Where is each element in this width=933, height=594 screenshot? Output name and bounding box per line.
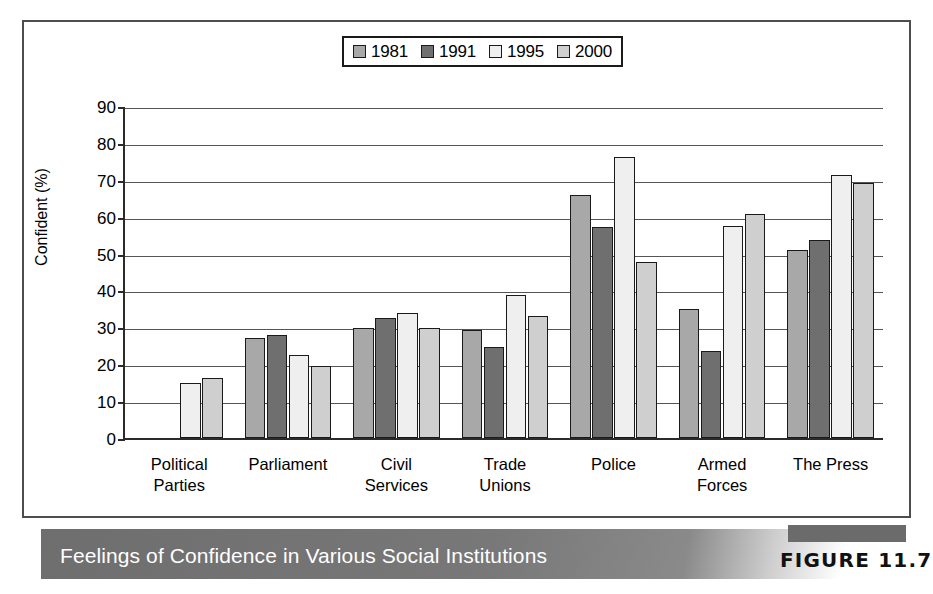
legend-swatch-icon-1995 <box>489 45 502 58</box>
bar-police-1981[interactable] <box>570 195 591 438</box>
x-axis-label-line: Armed <box>662 454 782 475</box>
legend-swatch-icon-1981 <box>353 45 366 58</box>
bar-civil-services-2000[interactable] <box>419 328 440 438</box>
y-tick-mark-90 <box>118 107 125 109</box>
x-axis-label-line: Parliament <box>228 454 348 475</box>
y-tick-mark-50 <box>118 255 125 257</box>
bar-group-trade-unions: TradeUnions <box>462 108 549 438</box>
y-tick-label-90: 90 <box>97 98 116 118</box>
bar-political-parties-2000[interactable] <box>202 378 223 438</box>
x-axis-label-political-parties: PoliticalParties <box>119 454 239 495</box>
x-axis-label-civil-services: CivilServices <box>336 454 456 495</box>
legend: 1981199119952000 <box>342 36 623 67</box>
bar-group-civil-services: CivilServices <box>353 108 440 438</box>
legend-item-1991[interactable]: 1991 <box>421 43 476 60</box>
x-axis-label-parliament: Parliament <box>228 454 348 475</box>
x-axis-label-line: Police <box>554 454 674 475</box>
bar-trade-unions-1995[interactable] <box>506 295 527 438</box>
legend-item-1995[interactable]: 1995 <box>489 43 544 60</box>
legend-label: 2000 <box>575 43 612 60</box>
legend-label: 1995 <box>507 43 544 60</box>
x-axis-label-armed-forces: ArmedForces <box>662 454 782 495</box>
figure-tag-label: FIGURE 11.7 <box>780 548 932 572</box>
bar-parliament-1991[interactable] <box>267 335 288 438</box>
y-tick-mark-10 <box>118 402 125 404</box>
plot-area: 9080706050403020100 PoliticalPartiesParl… <box>123 108 883 440</box>
bar-group-armed-forces: ArmedForces <box>679 108 766 438</box>
bar-parliament-1981[interactable] <box>245 338 266 438</box>
x-axis-label-trade-unions: TradeUnions <box>445 454 565 495</box>
bar-the-press-1981[interactable] <box>787 250 808 438</box>
bar-the-press-1991[interactable] <box>809 240 830 438</box>
bar-armed-forces-1991[interactable] <box>701 351 722 438</box>
bar-parliament-2000[interactable] <box>311 366 332 438</box>
legend-swatch-icon-1991 <box>421 45 434 58</box>
y-tick-label-0: 0 <box>107 430 116 450</box>
y-tick-mark-30 <box>118 328 125 330</box>
y-tick-label-20: 20 <box>97 356 116 376</box>
y-tick-mark-80 <box>118 144 125 146</box>
x-axis-label-line: The Press <box>771 454 891 475</box>
x-axis-label-line: Trade <box>445 454 565 475</box>
bar-political-parties-1995[interactable] <box>180 383 201 438</box>
y-tick-label-60: 60 <box>97 208 116 228</box>
bar-armed-forces-2000[interactable] <box>745 214 766 438</box>
x-axis-label-police: Police <box>554 454 674 475</box>
bar-series-container: PoliticalPartiesParliamentCivilServicesT… <box>125 108 883 438</box>
bar-civil-services-1981[interactable] <box>353 328 374 438</box>
legend-item-2000[interactable]: 2000 <box>557 43 612 60</box>
y-tick-mark-70 <box>118 181 125 183</box>
bar-police-1991[interactable] <box>592 227 613 438</box>
y-tick-label-50: 50 <box>97 245 116 265</box>
figure-tag-bar <box>788 525 906 542</box>
legend-label: 1991 <box>439 43 476 60</box>
x-axis-label-line: Forces <box>662 475 782 496</box>
x-axis-label-line: Parties <box>119 475 239 496</box>
y-tick-mark-20 <box>118 365 125 367</box>
bar-trade-unions-1981[interactable] <box>462 330 483 438</box>
y-tick-mark-60 <box>118 218 125 220</box>
caption-text: Feelings of Confidence in Various Social… <box>60 544 547 568</box>
bar-group-parliament: Parliament <box>245 108 332 438</box>
x-axis-label-line: Services <box>336 475 456 496</box>
legend-item-1981[interactable]: 1981 <box>353 43 408 60</box>
bar-police-2000[interactable] <box>636 262 657 438</box>
x-axis-label-the-press: The Press <box>771 454 891 475</box>
y-tick-mark-40 <box>118 291 125 293</box>
legend-label: 1981 <box>371 43 408 60</box>
bar-civil-services-1991[interactable] <box>375 318 396 438</box>
bar-armed-forces-1995[interactable] <box>723 226 744 438</box>
plot-wrapper: Confident (%) 9080706050403020100 Politi… <box>22 20 911 518</box>
x-axis-label-line: Unions <box>445 475 565 496</box>
x-axis-label-line: Civil <box>336 454 456 475</box>
y-tick-label-40: 40 <box>97 282 116 302</box>
bar-civil-services-1995[interactable] <box>397 313 418 438</box>
bar-the-press-1995[interactable] <box>831 175 852 438</box>
bar-group-political-parties: PoliticalParties <box>136 108 223 438</box>
bar-armed-forces-1981[interactable] <box>679 309 700 438</box>
bar-group-the-press: The Press <box>787 108 874 438</box>
bar-group-police: Police <box>570 108 657 438</box>
y-tick-label-80: 80 <box>97 134 116 154</box>
bar-trade-unions-1991[interactable] <box>484 347 505 438</box>
bar-parliament-1995[interactable] <box>289 355 310 438</box>
figure-page: Confident (%) 9080706050403020100 Politi… <box>0 0 933 594</box>
y-tick-label-70: 70 <box>97 171 116 191</box>
y-tick-label-10: 10 <box>97 393 116 413</box>
bar-police-1995[interactable] <box>614 157 635 438</box>
y-tick-label-30: 30 <box>97 319 116 339</box>
y-axis-title: Confident (%) <box>33 107 51 327</box>
x-axis-label-line: Political <box>119 454 239 475</box>
bar-trade-unions-2000[interactable] <box>528 316 549 438</box>
bar-the-press-2000[interactable] <box>853 183 874 438</box>
legend-swatch-icon-2000 <box>557 45 570 58</box>
y-tick-mark-0 <box>118 439 125 441</box>
